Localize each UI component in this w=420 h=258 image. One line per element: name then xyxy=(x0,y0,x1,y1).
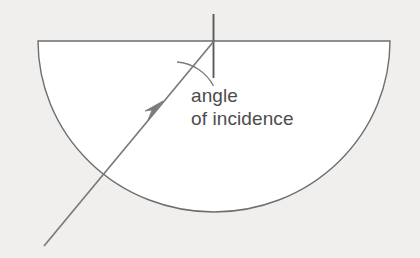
optics-diagram xyxy=(0,0,420,258)
diagram-canvas: angle of incidence xyxy=(0,0,420,258)
